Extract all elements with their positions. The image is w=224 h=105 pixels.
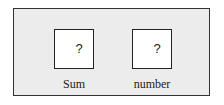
sum-box: ? — [54, 29, 94, 69]
sum-value: ? — [55, 41, 93, 56]
diagram-panel: ? Sum ? number — [13, 8, 210, 96]
number-value: ? — [133, 41, 171, 56]
sum-label: Sum — [44, 77, 104, 92]
number-box: ? — [132, 29, 172, 69]
number-label: number — [122, 77, 182, 92]
